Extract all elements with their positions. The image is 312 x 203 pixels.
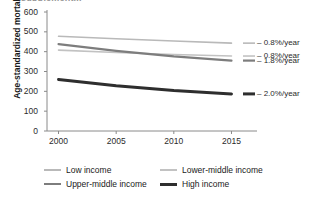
legend-row-2: Upper-middle income High income: [44, 177, 306, 191]
legend-label-high-income: High income: [182, 179, 229, 189]
legend-swatch-low-income: [44, 169, 61, 171]
legend-label-upper-middle-income: Upper-middle income: [66, 179, 147, 189]
legend-swatch-high-income: [160, 183, 177, 186]
chart-legend: Low income Lower-middle income Upper-mid…: [44, 163, 306, 191]
series-lines: [59, 36, 255, 94]
series-line-high-income: [59, 79, 232, 93]
rate-annotation: – 1.8%/year: [257, 57, 300, 65]
series-line-upper-middle-income: [59, 44, 232, 60]
rate-annotation: – 2.0%/year: [257, 90, 300, 98]
axes: [44, 10, 257, 134]
legend-label-lower-middle-income: Lower-middle income: [182, 165, 263, 175]
legend-item-high-income[interactable]: High income: [160, 179, 229, 189]
rate-annotation: – 0.8%/year: [257, 39, 300, 47]
legend-label-low-income: Low income: [66, 165, 111, 175]
legend-item-upper-middle-income[interactable]: Upper-middle income: [44, 179, 160, 189]
legend-swatch-upper-middle-income: [44, 183, 61, 185]
legend-row-1: Low income Lower-middle income: [44, 163, 306, 177]
legend-item-lower-middle-income[interactable]: Lower-middle income: [160, 165, 263, 175]
legend-item-low-income[interactable]: Low income: [44, 165, 160, 175]
legend-swatch-lower-middle-income: [160, 169, 177, 171]
series-line-low-income: [59, 36, 232, 43]
mortality-rate-line-chart: ...supplement... Age-standardized mortal…: [0, 0, 312, 203]
